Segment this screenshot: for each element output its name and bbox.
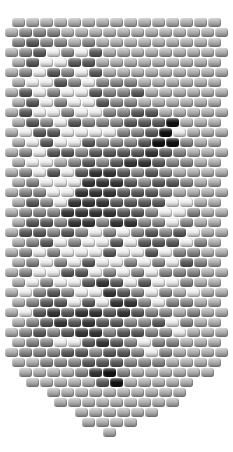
bead	[124, 98, 137, 107]
bead	[103, 248, 116, 257]
bead	[131, 188, 144, 197]
bead	[40, 138, 53, 147]
bead	[187, 48, 200, 57]
bead	[89, 308, 102, 317]
bead	[117, 228, 130, 237]
bead	[159, 248, 172, 257]
bead	[110, 98, 123, 107]
bead	[159, 368, 172, 377]
bead	[152, 398, 165, 407]
bead	[138, 358, 151, 367]
bead	[110, 418, 123, 427]
bead	[152, 178, 165, 187]
bead	[145, 148, 158, 157]
bead	[166, 338, 179, 347]
bead	[173, 28, 186, 37]
bead	[103, 288, 116, 297]
bead	[145, 268, 158, 277]
bead	[12, 78, 25, 87]
bead	[138, 18, 151, 27]
bead	[54, 118, 67, 127]
bead	[68, 218, 81, 227]
bead	[40, 18, 53, 27]
bead	[145, 88, 158, 97]
bead	[215, 168, 228, 177]
bead	[180, 338, 193, 347]
bead	[173, 128, 186, 137]
bead	[215, 28, 228, 37]
bead	[194, 218, 207, 227]
bead	[152, 198, 165, 207]
bead	[54, 38, 67, 47]
bead	[5, 108, 18, 117]
bead	[68, 178, 81, 187]
bead	[61, 228, 74, 237]
bead	[33, 348, 46, 357]
bead	[131, 68, 144, 77]
bead	[89, 408, 102, 417]
bead	[117, 348, 130, 357]
bead	[26, 98, 39, 107]
bead	[117, 248, 130, 257]
bead	[208, 18, 221, 27]
bead	[110, 198, 123, 207]
bead	[89, 128, 102, 137]
bead	[201, 268, 214, 277]
bead	[61, 148, 74, 157]
bead	[47, 108, 60, 117]
bead	[5, 208, 18, 217]
bead	[194, 318, 207, 327]
bead	[194, 78, 207, 87]
bead	[110, 338, 123, 347]
bead	[47, 328, 60, 337]
bead	[131, 148, 144, 157]
bead	[117, 188, 130, 197]
bead	[103, 368, 116, 377]
bead	[187, 328, 200, 337]
bead	[54, 298, 67, 307]
bead	[96, 138, 109, 147]
bead	[40, 158, 53, 167]
bead	[68, 78, 81, 87]
bead	[194, 158, 207, 167]
bead	[12, 278, 25, 287]
bead	[208, 298, 221, 307]
bead	[103, 328, 116, 337]
bead	[124, 178, 137, 187]
bead	[61, 168, 74, 177]
bead	[26, 378, 39, 387]
bead	[68, 258, 81, 267]
bead	[47, 148, 60, 157]
bead	[159, 348, 172, 357]
bead	[208, 318, 221, 327]
bead	[89, 168, 102, 177]
bead	[103, 48, 116, 57]
bead	[75, 388, 88, 397]
bead	[54, 358, 67, 367]
bead	[131, 388, 144, 397]
bead	[138, 98, 151, 107]
bead	[145, 348, 158, 357]
bead	[61, 188, 74, 197]
bead	[138, 118, 151, 127]
bead	[201, 108, 214, 117]
bead	[152, 218, 165, 227]
bead	[187, 128, 200, 137]
bead	[75, 28, 88, 37]
bead	[33, 328, 46, 337]
bead	[208, 218, 221, 227]
bead	[75, 48, 88, 57]
bead	[187, 68, 200, 77]
bead	[68, 118, 81, 127]
bead	[5, 328, 18, 337]
bead	[173, 148, 186, 157]
bead	[166, 78, 179, 87]
bead	[26, 18, 39, 27]
bead	[40, 298, 53, 307]
bead	[82, 58, 95, 67]
bead	[5, 168, 18, 177]
bead	[138, 58, 151, 67]
bead	[103, 228, 116, 237]
bead	[68, 138, 81, 147]
bead	[138, 378, 151, 387]
